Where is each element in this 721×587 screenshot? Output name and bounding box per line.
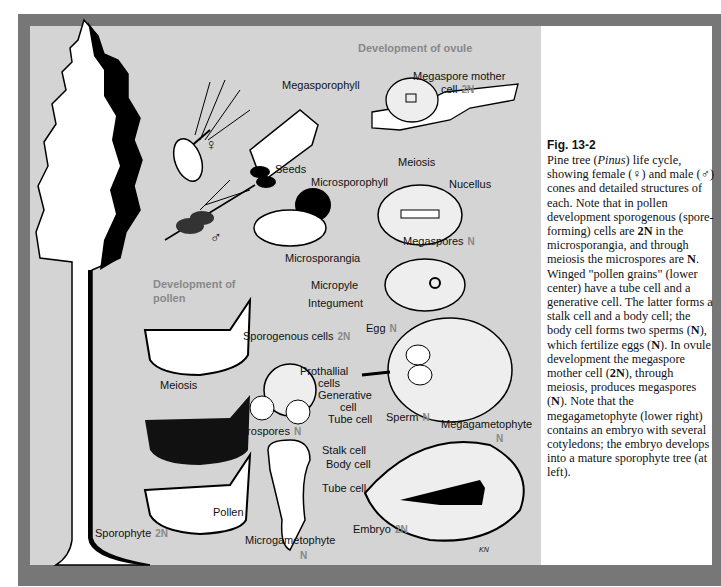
caption-bold: 2N xyxy=(637,224,652,238)
label-text: Sporophyte xyxy=(95,527,151,539)
label-sporogenous-cells: Sporogenous cells2N xyxy=(243,330,350,343)
label-megagametophyte-ploidy: N xyxy=(492,432,503,445)
label-microsporangia: Microsporangia xyxy=(285,252,360,264)
caption-genus: Pinus xyxy=(598,153,626,167)
label-microgametophyte-ploidy: N xyxy=(296,549,307,562)
label-egg: EggN xyxy=(366,322,397,335)
label-sporophyte: Sporophyte2N xyxy=(95,527,168,540)
figure-number: Fig. 13-2 xyxy=(547,138,596,152)
label-microgametophyte: Microgametophyte xyxy=(245,534,336,546)
label-stalk-cell: Stalk cell xyxy=(322,444,366,456)
label-text: Egg xyxy=(366,322,386,334)
male-symbol: ♂ xyxy=(210,232,222,244)
section-title-pollen-2: pollen xyxy=(153,292,185,305)
label-nucellus: Nucellus xyxy=(449,178,491,190)
ploidy-badge: 2N xyxy=(338,331,351,342)
label-prothallial-cells-2: cells xyxy=(318,377,340,389)
label-seeds: Seeds xyxy=(275,163,306,175)
section-title-ovule: Development of ovule xyxy=(358,42,472,55)
label-megaspores: MegasporesN xyxy=(403,235,475,248)
micropyle-diagram xyxy=(385,259,465,311)
ploidy-badge: N xyxy=(496,433,503,444)
label-microspores: MicrosporesN xyxy=(230,425,301,438)
label-text: Megaspores xyxy=(403,235,464,247)
female-cone-icon xyxy=(168,80,250,185)
caption-bold: N xyxy=(551,394,560,408)
label-megaspore-mother: Megaspore mother xyxy=(413,70,505,82)
pollen-grain-diagrams xyxy=(250,364,316,550)
ploidy-badge: 2N xyxy=(395,524,408,535)
label-meiosis-pollen: Meiosis xyxy=(160,379,197,391)
label-text: Sporogenous cells xyxy=(243,330,334,342)
label-tube-cell-2: Tube cell xyxy=(322,482,366,494)
label-sperm: SpermN xyxy=(386,411,430,424)
label-megaspore-mother-cell: cell2N xyxy=(441,83,474,96)
microsporophyll-icon xyxy=(254,188,331,246)
label-pollen: Pollen xyxy=(213,506,244,518)
label-microsporophyll: Microsporophyll xyxy=(311,176,388,188)
female-symbol: ♀ xyxy=(205,139,217,151)
ploidy-badge: N xyxy=(300,550,307,561)
artist-signature: KN xyxy=(479,544,489,556)
caption-text: ). Note that the megagametophyte (lower … xyxy=(547,394,709,479)
label-body-cell: Body cell xyxy=(326,458,371,470)
section-title-pollen-1: Development of xyxy=(153,278,236,291)
label-megasporophyll: Megasporophyll xyxy=(282,79,360,91)
caption-bold: 2N xyxy=(610,366,625,380)
label-tube-cell-1: Tube cell xyxy=(328,413,372,425)
caption-bold: N xyxy=(691,323,700,337)
caption-text: Pine tree ( xyxy=(547,153,598,167)
ploidy-badge: N xyxy=(390,323,397,334)
caption-bold: N xyxy=(651,338,660,352)
label-text: cell xyxy=(441,83,458,95)
caption-bold: N xyxy=(687,252,696,266)
ploidy-badge: 2N xyxy=(462,84,475,95)
label-text: Sperm xyxy=(386,411,418,423)
label-micropyle: Micropyle xyxy=(311,279,358,291)
ploidy-badge: N xyxy=(468,236,475,247)
label-generative-cell-1: Generative xyxy=(318,389,372,401)
label-text: Microspores xyxy=(230,425,290,437)
label-meiosis-ovule: Meiosis xyxy=(398,156,435,168)
label-prothallial-cells-1: Prothallial xyxy=(300,365,348,377)
megasporophyll-icon xyxy=(250,110,318,188)
ploidy-badge: N xyxy=(294,426,301,437)
pine-tree-icon xyxy=(36,20,150,565)
ploidy-badge: 2N xyxy=(155,528,168,539)
figure-caption: Pine tree (Pinus) life cycle, showing fe… xyxy=(547,153,717,480)
sporangium-diagrams xyxy=(145,300,250,534)
label-embryo: Embryo2N xyxy=(353,523,408,536)
ploidy-badge: N xyxy=(422,412,429,423)
label-generative-cell-2: cell xyxy=(340,401,357,413)
label-megagametophyte: Megagametophyte xyxy=(441,418,532,430)
label-integument: Integument xyxy=(308,297,363,309)
label-text: Embryo xyxy=(353,523,391,535)
